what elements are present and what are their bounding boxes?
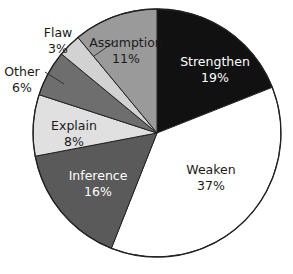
pie-chart: Strengthen 19% Weaken 37% Inference 16% … <box>0 0 293 274</box>
pie-chart-canvas: Strengthen 19% Weaken 37% Inference 16% … <box>0 0 293 274</box>
outer-value-flaw: 3% <box>48 41 68 56</box>
slice-label-strengthen: Strengthen <box>180 54 250 69</box>
slice-label-inference: Inference <box>69 168 128 183</box>
slice-label-assumption: Assumption <box>89 35 163 50</box>
slice-value-explain: 8% <box>64 134 84 149</box>
slice-value-inference: 16% <box>84 184 112 199</box>
slice-label-weaken: Weaken <box>186 162 235 177</box>
outer-label-other: Other <box>4 64 40 79</box>
slice-value-weaken: 37% <box>197 178 225 193</box>
outer-label-flaw: Flaw <box>44 25 73 40</box>
slice-value-assumption: 11% <box>112 51 140 66</box>
slice-value-strengthen: 19% <box>201 70 229 85</box>
slice-label-explain: Explain <box>51 118 97 133</box>
outer-value-other: 6% <box>12 80 32 95</box>
